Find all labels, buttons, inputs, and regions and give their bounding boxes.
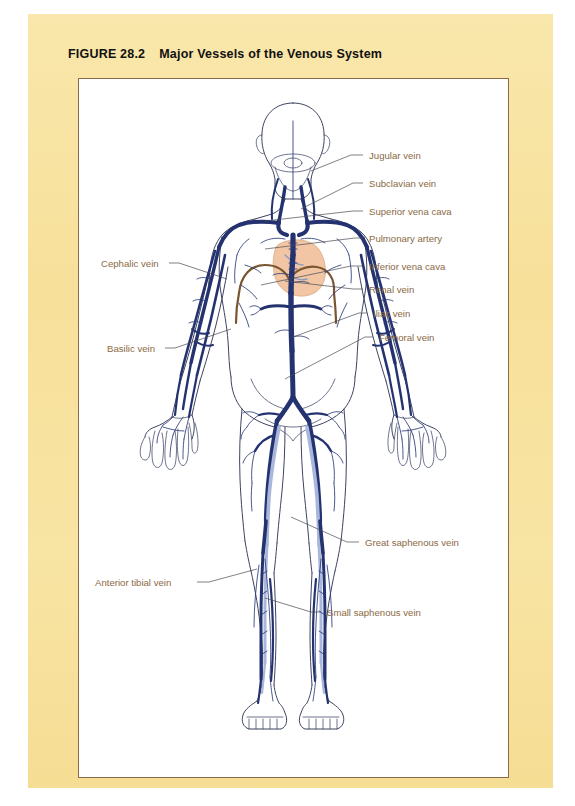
label-small-saphenous-vein: Small saphenous vein bbox=[327, 607, 421, 618]
label-anterior-tibial-vein: Anterior tibial vein bbox=[95, 577, 171, 588]
label-cephalic-vein: Cephalic vein bbox=[101, 258, 159, 269]
label-renal-vein: Renal vein bbox=[369, 284, 414, 295]
figure-title-text: Major Vessels of the Venous System bbox=[159, 47, 382, 61]
figure-root: FIGURE 28.2Major Vessels of the Venous S… bbox=[0, 0, 575, 806]
leader-cephalic-vein bbox=[169, 263, 227, 279]
leader-iliac-vein bbox=[293, 313, 367, 337]
figure-plate: Jugular vein Subclavian vein Superior ve… bbox=[78, 78, 509, 778]
label-superior-vena-cava: Superior vena cava bbox=[369, 206, 452, 217]
label-basilic-vein: Basilic vein bbox=[107, 343, 155, 354]
figure-number: FIGURE 28.2 bbox=[68, 47, 145, 61]
label-great-saphenous-vein: Great saphenous vein bbox=[365, 537, 459, 548]
label-jugular-vein: Jugular vein bbox=[369, 150, 421, 161]
leader-great-saphenous-vein bbox=[291, 517, 359, 542]
label-pulmonary-artery: Pulmonary artery bbox=[369, 233, 442, 244]
figure-caption: FIGURE 28.2Major Vessels of the Venous S… bbox=[68, 47, 382, 61]
label-subclavian-vein: Subclavian vein bbox=[369, 178, 436, 189]
label-femoral-vein: Femoral vein bbox=[379, 332, 434, 343]
leader-anterior-tibial-vein bbox=[197, 569, 257, 582]
label-inferior-vena-cava: Inferior vena cava bbox=[369, 261, 446, 272]
leader-femoral-vein bbox=[285, 337, 373, 379]
anatomy-illustration: Jugular vein Subclavian vein Superior ve… bbox=[79, 79, 508, 777]
leader-jugular-vein bbox=[311, 155, 363, 171]
label-iliac-vein: Iliac vein bbox=[373, 308, 410, 319]
